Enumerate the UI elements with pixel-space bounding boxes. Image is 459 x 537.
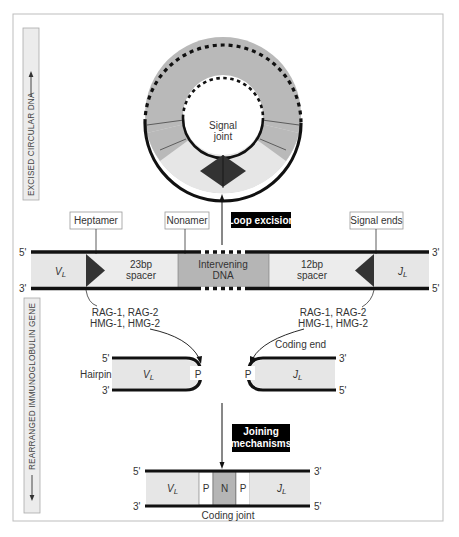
enzymes-right-line2: HMG-1, HMG-2 [298, 318, 368, 329]
hairpin-left-bottom-end: 3' [102, 385, 110, 396]
heptamer-label: Heptamer [74, 215, 119, 226]
coding-joint-left-bottom-end: 3' [133, 501, 141, 512]
joining-label-line2: mechanisms [231, 438, 292, 449]
enzymes-right-line1: RAG-1, RAG-2 [300, 307, 367, 318]
side-label-excised: EXCISED CIRCULAR DNA [23, 28, 39, 200]
nonamer-right-block [249, 254, 269, 287]
vdj-recombination-diagram: EXCISED CIRCULAR DNA REARRANGED IMMUNOGL… [0, 0, 459, 537]
hairpin-left-p: P [195, 369, 202, 380]
coding-joint-left-top-end: 5' [133, 466, 141, 477]
spacer-12bp-line1: 12bp [301, 259, 324, 270]
germline-left-top-end: 5' [19, 247, 27, 258]
coding-joint-right-top-end: 3' [314, 466, 322, 477]
side-label-rearranged: REARRANGED IMMUNOGLOBULIN GENE [24, 298, 40, 513]
joining-mechanisms-callout: Joining mechanisms [231, 424, 292, 452]
side-label-rearranged-text: REARRANGED IMMUNOGLOBULIN GENE [28, 303, 37, 470]
hairpin-right-p: P [245, 369, 252, 380]
hairpin-right-bottom-end: 5' [339, 385, 347, 396]
germline-right-bottom-end: 5' [432, 283, 440, 294]
loop-excision-callout: Loop excision [227, 212, 294, 228]
spacer-12bp-line2: spacer [297, 270, 328, 281]
germline-right-top-end: 3' [432, 247, 440, 258]
intervening-dna-line1: Intervening [198, 259, 247, 270]
nonamer-label: Nonamer [166, 215, 208, 226]
signal-ends-label: Signal ends [350, 215, 402, 226]
coding-joint-n-label: N [221, 483, 228, 494]
coding-joint-p1-label: P [203, 483, 210, 494]
coding-joint-caption: Coding joint [202, 510, 255, 521]
coding-end-label: Coding end [275, 339, 326, 350]
germline-left-bottom-end: 3' [19, 283, 27, 294]
germline-dna: 5' 3' 3' 5' VL 23bp spacer Intervening D… [19, 247, 440, 294]
hairpin-label: Hairpin [80, 369, 112, 380]
coding-joint-p2-label: P [240, 483, 247, 494]
spacer-23bp-line1: 23bp [130, 259, 153, 270]
loop-excision-label: Loop excision [227, 215, 294, 226]
intervening-dna-line2: DNA [212, 270, 233, 281]
side-label-excised-text: EXCISED CIRCULAR DNA [27, 92, 36, 196]
enzymes-left-line2: HMG-1, HMG-2 [90, 318, 160, 329]
enzymes-left-line1: RAG-1, RAG-2 [92, 307, 159, 318]
coding-joint-right-bottom-end: 5' [314, 501, 322, 512]
spacer-23bp-line2: spacer [126, 270, 157, 281]
nonamer-left-block [178, 254, 197, 287]
signal-joint-label-line1: Signal [209, 120, 237, 131]
hairpin-right-top-end: 3' [339, 353, 347, 364]
hairpin-left-top-end: 5' [102, 353, 110, 364]
signal-joint-label-line2: joint [213, 131, 233, 142]
joining-label-line1: Joining [243, 426, 279, 437]
